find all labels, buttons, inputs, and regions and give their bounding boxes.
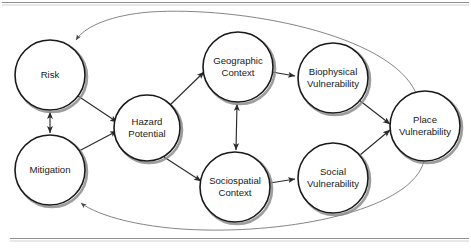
- node-place-vulnerability-label-line1: Place: [413, 114, 437, 125]
- edge-risk-hazard: [78, 96, 117, 122]
- node-mitigation[interactable]: Mitigation: [15, 135, 87, 207]
- edge-social-place: [360, 130, 390, 155]
- node-hazard-potential-label-line2: Potential: [128, 128, 165, 139]
- node-social-vulnerability-label-line1: Social: [320, 166, 346, 177]
- node-biophysical-vulnerability-label-line1: Biophysical: [309, 66, 358, 77]
- edge-hazard-geographic: [170, 72, 204, 105]
- node-place-vulnerability[interactable]: Place Vulnerability: [390, 91, 462, 163]
- edge-geographic-sociospatial: [236, 104, 237, 150]
- node-place-vulnerability-label-line2: Vulnerability: [399, 126, 451, 137]
- edge-mitigation-hazard: [79, 131, 117, 151]
- diagram-canvas: Risk Mitigation Hazard Potential Geograp…: [0, 0, 471, 252]
- node-sociospatial-context-label-line1: Sociospatial: [209, 175, 261, 186]
- node-sociospatial-context-label-line2: Context: [218, 187, 251, 198]
- node-geographic-context[interactable]: Geographic Context: [203, 32, 275, 104]
- edge-hazard-sociospatial: [164, 157, 201, 181]
- node-social-vulnerability-label-line2: Vulnerability: [307, 178, 359, 189]
- node-biophysical-vulnerability-label-line2: Vulnerability: [307, 78, 359, 89]
- concept-diagram: Risk Mitigation Hazard Potential Geograp…: [0, 0, 471, 252]
- node-biophysical-vulnerability[interactable]: Biophysical Vulnerability: [298, 43, 370, 115]
- node-geographic-context-label-line2: Context: [221, 67, 254, 78]
- node-sociospatial-context[interactable]: Sociospatial Context: [200, 152, 272, 224]
- node-hazard-potential[interactable]: Hazard Potential: [114, 95, 182, 163]
- node-geographic-context-label-line1: Geographic: [213, 55, 263, 66]
- node-hazard-potential-label-line1: Hazard: [132, 116, 163, 127]
- node-risk[interactable]: Risk: [15, 40, 87, 112]
- nodes: Risk Mitigation Hazard Potential Geograp…: [15, 32, 462, 224]
- edge-biophysical-place: [359, 100, 390, 124]
- node-mitigation-label: Mitigation: [29, 164, 70, 175]
- edge-sociospatial-social: [270, 179, 295, 183]
- node-social-vulnerability[interactable]: Social Vulnerability: [298, 143, 370, 215]
- node-risk-label: Risk: [41, 69, 60, 80]
